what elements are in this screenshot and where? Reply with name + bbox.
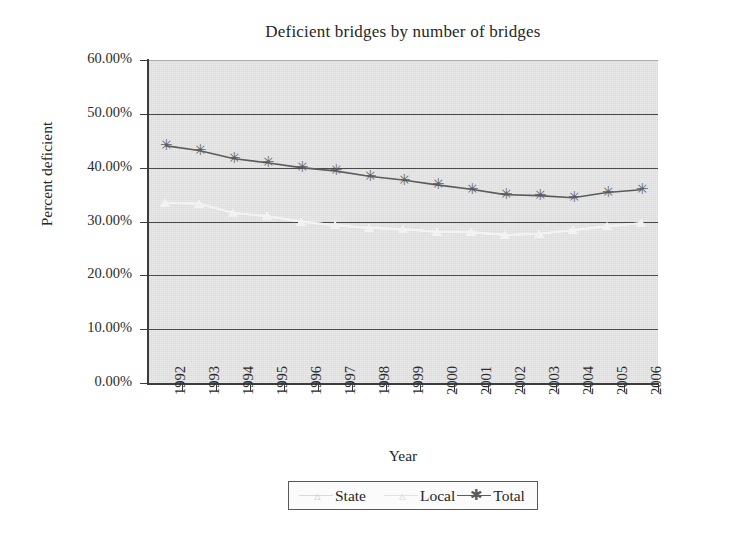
series-line-total [165, 146, 641, 198]
legend-label-total: Total [491, 487, 527, 505]
y-axis-tick [140, 222, 148, 223]
y-axis-tick [140, 275, 148, 276]
x-axis-tick-label: 2000 [444, 375, 461, 395]
x-axis-tick-label: 1992 [172, 375, 189, 395]
y-axis-tick [140, 114, 148, 115]
x-axis-tick [556, 385, 557, 392]
x-axis-tick-label: 2002 [512, 375, 529, 395]
x-axis-tick [658, 385, 659, 392]
x-axis-tick-label: 1996 [308, 375, 325, 395]
x-axis-tick-label: 1999 [410, 375, 427, 395]
legend-item-total[interactable]: ✱ Total [457, 482, 527, 509]
y-axis-tick-label: 20.00% [60, 265, 132, 282]
x-axis-tick [386, 385, 387, 392]
x-axis-tick-label: 2006 [648, 375, 665, 395]
y-axis-tick-label: 40.00% [60, 158, 132, 175]
triangle-marker-icon: ▵ [299, 489, 333, 503]
x-axis-tick-label: 2003 [546, 375, 563, 395]
x-axis-tick [590, 385, 591, 392]
y-axis-title: Percent deficient [38, 89, 56, 259]
x-axis-tick-label: 1997 [342, 375, 359, 395]
x-axis-tick [216, 385, 217, 392]
legend-label-state: State [333, 487, 368, 505]
x-axis-tick-label: 2004 [580, 375, 597, 395]
x-axis-tick [352, 385, 353, 392]
legend-item-state[interactable]: ▵ State [299, 482, 368, 509]
y-axis-tick [140, 383, 148, 384]
y-axis-tick [140, 329, 148, 330]
x-axis-tick-label: 2005 [614, 375, 631, 395]
x-axis-tick [182, 385, 183, 392]
y-axis-tick-label: 30.00% [60, 212, 132, 229]
plot-area: ✳✳✳✳✳✳✳✳✳✳✳✳✳✳✳ [148, 60, 658, 383]
legend-label-local: Local [418, 487, 457, 505]
x-axis-tick-label: 1994 [240, 375, 257, 395]
legend-item-local[interactable]: ▵ Local [384, 482, 457, 509]
x-axis-tick [488, 385, 489, 392]
triangle-marker-icon: ▵ [384, 489, 418, 503]
y-axis-tick-label: 60.00% [60, 50, 132, 67]
y-axis-tick [140, 168, 148, 169]
asterisk-marker-icon: ✱ [457, 489, 491, 503]
x-axis-tick [522, 385, 523, 392]
y-axis-tick-label: 50.00% [60, 104, 132, 121]
y-axis-tick [140, 60, 148, 61]
x-axis-tick [624, 385, 625, 392]
y-axis-tick-labels: 60.00%50.00%40.00%30.00%20.00%10.00%0.00… [60, 0, 132, 541]
series-line-local [165, 203, 641, 235]
x-axis-tick [420, 385, 421, 392]
x-axis-title: Year [148, 447, 658, 465]
chart-legend: ▵ State ▵ Local ✱ Total [288, 481, 538, 510]
x-axis-tick [250, 385, 251, 392]
x-axis-tick [454, 385, 455, 392]
x-axis-tick [284, 385, 285, 392]
x-axis-tick-label: 1998 [376, 375, 393, 395]
x-axis-tick-label: 1993 [206, 375, 223, 395]
series-lines [148, 60, 658, 383]
x-axis-tick-label: 1995 [274, 375, 291, 395]
y-axis-tick-label: 0.00% [60, 373, 132, 390]
x-axis-tick [318, 385, 319, 392]
chart-title: Deficient bridges by number of bridges [148, 22, 658, 42]
x-axis-tick-label: 2001 [478, 375, 495, 395]
chart-figure: Deficient bridges by number of bridges P… [0, 0, 743, 541]
y-axis-tick-label: 10.00% [60, 319, 132, 336]
